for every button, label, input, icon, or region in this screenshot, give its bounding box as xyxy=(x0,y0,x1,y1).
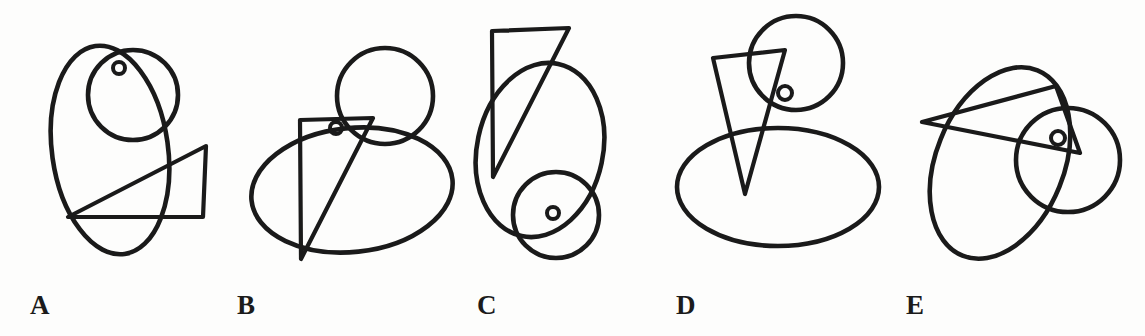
panel-d xyxy=(677,16,879,246)
panel-a-large-ellipse xyxy=(38,38,182,262)
panel-c-medium-circle xyxy=(513,172,599,258)
panel-d-small-dot-circle xyxy=(778,86,792,100)
panel-c-small-dot-circle xyxy=(547,207,559,219)
figures-canvas xyxy=(0,0,1145,336)
panel-b-large-ellipse xyxy=(245,118,459,262)
panel-a xyxy=(38,38,206,262)
panel-label-b: B xyxy=(237,292,256,319)
panel-b xyxy=(245,48,459,262)
figure-sheet: A B C D E xyxy=(0,0,1145,336)
panel-label-c: C xyxy=(477,292,497,319)
panel-label-e: E xyxy=(906,292,925,319)
panel-e xyxy=(903,46,1120,279)
panel-c xyxy=(460,28,620,258)
panel-d-medium-circle xyxy=(749,16,843,110)
panel-e-small-dot-circle xyxy=(1051,131,1065,145)
panel-label-a: A xyxy=(30,292,50,319)
panel-e-large-ellipse xyxy=(903,46,1097,279)
panel-label-d: D xyxy=(676,292,696,319)
panel-d-large-ellipse xyxy=(677,128,879,246)
panel-b-narrow-triangle xyxy=(300,118,373,259)
panel-a-small-dot-circle xyxy=(113,62,125,74)
panel-a-right-triangle xyxy=(68,146,206,217)
panel-c-narrow-triangle xyxy=(492,28,569,177)
